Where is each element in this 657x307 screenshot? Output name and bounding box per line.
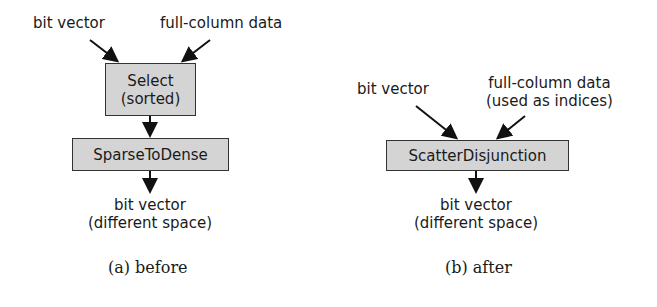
b-output-line1: bit vector bbox=[408, 196, 544, 214]
b-scatter-disjunction-label: ScatterDisjunction bbox=[409, 147, 547, 165]
a-output-line2: (different space) bbox=[82, 214, 218, 232]
a-output-line1: bit vector bbox=[82, 196, 218, 214]
a-select-label: Select bbox=[127, 72, 173, 90]
a-caption: (a) before bbox=[108, 258, 188, 277]
a-output: bit vector (different space) bbox=[82, 196, 218, 232]
a-select-sorted-node: Select (sorted) bbox=[105, 63, 196, 116]
a-sparse-to-dense-node: SparseToDense bbox=[72, 138, 229, 171]
a-input-bit-vector: bit vector bbox=[33, 14, 105, 32]
a-sorted-label: (sorted) bbox=[121, 90, 181, 108]
arrow-b-fullcolumn-to-scatter bbox=[499, 116, 525, 137]
b-input-full-column-line2: (used as indices) bbox=[486, 92, 613, 110]
b-scatter-disjunction-node: ScatterDisjunction bbox=[386, 140, 569, 171]
b-input-full-column-line1: full-column data bbox=[486, 74, 613, 92]
b-input-bit-vector: bit vector bbox=[357, 80, 429, 98]
a-sparse-to-dense-label: SparseToDense bbox=[93, 146, 208, 164]
a-input-full-column-data: full-column data bbox=[160, 14, 282, 32]
b-caption: (b) after bbox=[445, 258, 512, 277]
b-input-full-column-data: full-column data (used as indices) bbox=[486, 74, 613, 110]
arrow-b-bitvector-to-scatter bbox=[416, 106, 455, 137]
arrow-a-bitvector-to-select bbox=[90, 40, 116, 60]
arrow-a-fullcolumn-to-select bbox=[184, 40, 210, 60]
b-output: bit vector (different space) bbox=[408, 196, 544, 232]
b-output-line2: (different space) bbox=[408, 214, 544, 232]
